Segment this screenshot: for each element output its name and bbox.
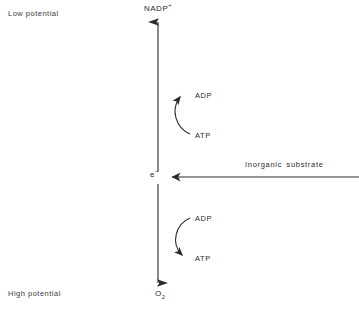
- atp-label-upper: ATP: [195, 132, 211, 140]
- adp-label-upper: ADP: [195, 92, 212, 100]
- nadp-text: NADP: [144, 4, 168, 13]
- nadp-charge-superscript: +: [168, 2, 172, 8]
- low-potential-label: Low potential: [8, 10, 59, 18]
- adp-to-atp-curve: [176, 218, 190, 255]
- atp-to-adp-curve: [175, 97, 190, 134]
- inorganic-substrate-label: Inorganic substrate: [245, 161, 324, 169]
- high-potential-label: High potential: [8, 290, 61, 298]
- electron-flow-diagram: Low potential High potential NADP+ O2 e−…: [0, 0, 359, 309]
- oxygen-text: O: [155, 289, 162, 298]
- nadp-plus-label: NADP+: [144, 5, 172, 13]
- oxygen-subscript: 2: [162, 294, 166, 300]
- electron-charge-superscript: −: [155, 168, 159, 174]
- diagram-canvas: [0, 0, 359, 309]
- adp-label-lower: ADP: [195, 215, 212, 223]
- oxygen-label: O2: [155, 290, 165, 298]
- electron-pool-label: e−: [150, 171, 158, 179]
- atp-label-lower: ATP: [195, 255, 211, 263]
